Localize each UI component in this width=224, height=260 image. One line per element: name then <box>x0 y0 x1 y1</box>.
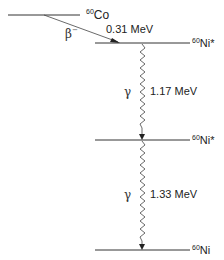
label-ni60-excited-1: 60Ni* <box>192 135 214 146</box>
gamma2-arrowhead-icon <box>139 244 145 250</box>
gamma2-label: γ <box>124 189 131 201</box>
gamma2-energy: 1.33 MeV <box>150 189 197 200</box>
gamma1-label: γ <box>124 86 131 98</box>
label-ni60-ground: 60Ni <box>192 245 210 256</box>
mass-number: 60 <box>192 244 200 251</box>
label-ni60-excited-2: 60Ni* <box>192 38 214 49</box>
label-co60: 60Co <box>86 9 109 21</box>
gamma1-energy: 1.17 MeV <box>150 86 197 97</box>
beta-charge: − <box>72 26 78 34</box>
element-symbol: Co <box>94 8 109 22</box>
gamma1-wavy-arrow <box>140 44 145 134</box>
mass-number: 60 <box>86 8 94 15</box>
beta-arrowhead-icon <box>110 38 120 43</box>
decay-scheme-graphic <box>0 0 224 260</box>
gamma1-arrowhead-icon <box>139 134 145 140</box>
gamma2-wavy-arrow <box>140 141 145 246</box>
mass-number: 60 <box>192 134 200 141</box>
beta-energy: 0.31 MeV <box>106 24 153 35</box>
element-symbol: Ni* <box>200 134 215 146</box>
beta-symbol: β <box>65 27 72 41</box>
element-symbol: Ni <box>200 244 210 256</box>
beta-label: β− <box>65 28 78 40</box>
element-symbol: Ni* <box>200 37 215 49</box>
mass-number: 60 <box>192 37 200 44</box>
